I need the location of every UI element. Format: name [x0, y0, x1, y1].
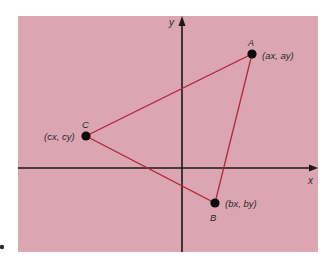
point-b-coords: (bx, by)	[225, 198, 257, 209]
y-axis-label: y	[168, 17, 175, 28]
triangle-diagram: x y A (ax, ay) B (bx, by) C (cx, cy)	[0, 0, 330, 265]
point-a-name: A	[247, 38, 254, 48]
x-axis-label: x	[307, 175, 314, 186]
point-c-coords: (cx, cy)	[44, 131, 75, 142]
point-c-marker	[81, 131, 90, 140]
point-a-coords: (ax, ay)	[262, 50, 294, 61]
point-b-marker	[210, 198, 219, 207]
point-a-marker	[247, 49, 256, 58]
point-b-name: B	[210, 212, 217, 223]
point-c-name: C	[82, 119, 89, 130]
edge-mark	[0, 245, 4, 249]
diagram-canvas: x y A (ax, ay) B (bx, by) C (cx, cy)	[0, 0, 330, 265]
